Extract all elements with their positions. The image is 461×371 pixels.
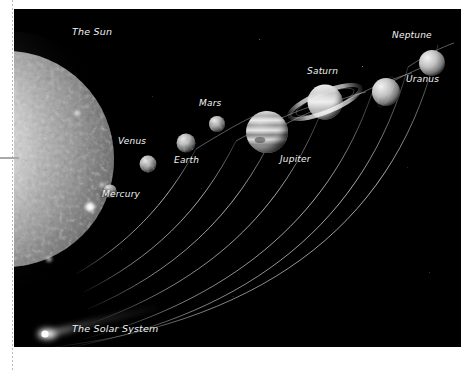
label-the-sun: The Sun bbox=[72, 26, 112, 37]
left-gray-rule bbox=[0, 157, 19, 159]
page-canvas: The Sun Mercury Venus Earth Mars Jupiter… bbox=[0, 0, 461, 371]
label-earth: Earth bbox=[174, 155, 199, 165]
label-uranus: Uranus bbox=[406, 74, 439, 84]
label-mars: Mars bbox=[199, 98, 221, 108]
label-venus: Venus bbox=[118, 136, 146, 146]
label-saturn: Saturn bbox=[307, 66, 338, 76]
label-the-solar-system: The Solar System bbox=[72, 323, 159, 334]
starfield-background bbox=[14, 9, 461, 347]
label-neptune: Neptune bbox=[392, 30, 432, 40]
left-dotted-rule bbox=[12, 0, 13, 371]
solar-system-figure: The Sun Mercury Venus Earth Mars Jupiter… bbox=[14, 9, 461, 347]
label-mercury: Mercury bbox=[102, 189, 140, 199]
label-jupiter: Jupiter bbox=[280, 154, 311, 164]
